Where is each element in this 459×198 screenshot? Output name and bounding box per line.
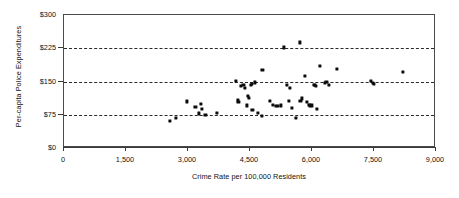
data-point bbox=[245, 104, 248, 107]
x-tick-mark-3000 bbox=[187, 147, 188, 151]
data-point bbox=[194, 106, 197, 109]
x-tick-mark-4500 bbox=[249, 147, 250, 151]
y-tick-label-0: $0 bbox=[18, 143, 56, 152]
data-point bbox=[315, 84, 318, 87]
data-point bbox=[310, 104, 313, 107]
data-point bbox=[287, 99, 290, 102]
data-point bbox=[291, 107, 294, 110]
x-tick-label-1500: 1,500 bbox=[116, 155, 134, 164]
x-tick-label-7500: 7,500 bbox=[364, 155, 382, 164]
data-point bbox=[237, 100, 240, 103]
x-tick-label-9000: 9,000 bbox=[426, 155, 444, 164]
data-point bbox=[268, 99, 271, 102]
data-point bbox=[260, 114, 263, 117]
data-point bbox=[251, 108, 254, 111]
data-point bbox=[234, 79, 237, 82]
x-axis-title: Crime Rate per 100,000 Residents bbox=[63, 172, 435, 181]
y-tick-label-225: $225 bbox=[18, 43, 56, 52]
x-tick-label-0: 0 bbox=[61, 155, 65, 164]
data-point bbox=[243, 86, 246, 89]
data-point bbox=[253, 81, 256, 84]
data-point bbox=[327, 83, 330, 86]
data-point bbox=[261, 68, 264, 71]
gridline-75 bbox=[64, 115, 434, 116]
data-point bbox=[319, 64, 322, 67]
data-point bbox=[288, 87, 291, 90]
data-point bbox=[335, 67, 338, 70]
data-point bbox=[200, 107, 203, 110]
data-point bbox=[295, 116, 298, 119]
x-tick-mark-1500 bbox=[125, 147, 126, 151]
data-point bbox=[200, 102, 203, 105]
y-tick-label-300: $300 bbox=[18, 10, 56, 19]
data-point bbox=[248, 96, 251, 99]
gridline-225 bbox=[64, 48, 434, 49]
data-point bbox=[298, 41, 301, 44]
data-point bbox=[198, 112, 201, 115]
data-point bbox=[286, 83, 289, 86]
x-tick-mark-6000 bbox=[311, 147, 312, 151]
scatter-plot-figure: Per-capita Police Expenditures Crime Rat… bbox=[0, 0, 459, 198]
data-point bbox=[186, 100, 189, 103]
data-point bbox=[372, 83, 375, 86]
data-point bbox=[300, 97, 303, 100]
data-point bbox=[315, 107, 318, 110]
data-point bbox=[282, 46, 285, 49]
plot-area bbox=[63, 14, 435, 147]
data-point bbox=[168, 119, 171, 122]
data-point bbox=[215, 111, 218, 114]
y-tick-label-75: $75 bbox=[18, 109, 56, 118]
y-tick-label-150: $150 bbox=[18, 76, 56, 85]
x-tick-mark-9000 bbox=[435, 147, 436, 151]
x-tick-mark-7500 bbox=[373, 147, 374, 151]
data-point bbox=[279, 104, 282, 107]
data-point bbox=[401, 70, 404, 73]
data-point bbox=[174, 116, 177, 119]
x-tick-label-4500: 4,500 bbox=[240, 155, 258, 164]
x-tick-label-6000: 6,000 bbox=[302, 155, 320, 164]
x-tick-label-3000: 3,000 bbox=[178, 155, 196, 164]
data-point bbox=[303, 75, 306, 78]
x-tick-mark-0 bbox=[63, 147, 64, 151]
data-point bbox=[204, 113, 207, 116]
